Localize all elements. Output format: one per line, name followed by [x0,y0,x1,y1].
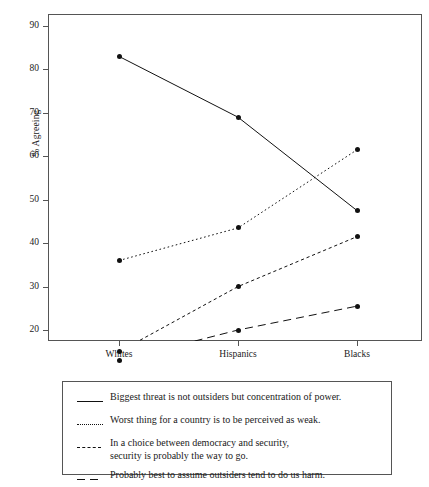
legend: Biggest threat is not outsiders but conc… [62,381,392,475]
y-tick-mark [43,69,48,70]
y-tick-label: 90 [30,19,40,32]
y-tick-40: 40 [0,243,48,244]
y-tick-label: 30 [30,280,40,293]
legend-item: In a choice between democracy and securi… [63,437,391,462]
y-tick-label: 20 [30,323,40,336]
legend-item: Probably best to assume outsiders tend t… [63,469,391,485]
legend-item: Biggest threat is not outsiders but conc… [63,391,391,407]
solid-line-swatch [77,395,103,407]
x-tick-label-blacks: Blacks [312,349,402,359]
y-tick-60: 60 [0,156,48,157]
y-tick-label: 70 [30,106,40,119]
y-tick-70: 70 [0,113,48,114]
fine-dashed-line-swatch [77,441,103,453]
x-tick-label-hispanics: Hispanics [193,349,283,359]
legend-item-label: Worst thing for a country is to be perce… [110,414,321,427]
y-tick-50: 50 [0,200,48,201]
y-tick-mark [43,200,48,201]
legend-item-label: Probably best to assume outsiders tend t… [110,469,325,482]
y-tick-label: 80 [30,62,40,75]
plot-area [48,14,422,341]
y-tick-label: 60 [30,149,40,162]
y-tick-mark [43,243,48,244]
y-tick-mark [43,330,48,331]
x-tick-mark-hispanics [238,341,239,346]
legend-item-label: Biggest threat is not outsiders but conc… [110,391,341,404]
y-tick-mark [43,156,48,157]
y-tick-80: 80 [0,69,48,70]
line-chart-figure: % Agreeing 2030405060708090 WhitesHispan… [0,0,429,487]
y-tick-30: 30 [0,287,48,288]
y-tick-mark [43,287,48,288]
y-tick-label: 50 [30,193,40,206]
x-tick-mark-blacks [357,341,358,346]
y-tick-90: 90 [0,26,48,27]
legend-item-label: In a choice between democracy and securi… [110,437,289,462]
y-tick-mark [43,113,48,114]
long-dashed-line-swatch [77,473,103,485]
y-tick-mark [43,26,48,27]
y-tick-label: 40 [30,236,40,249]
legend-item: Worst thing for a country is to be perce… [63,414,391,430]
x-tick-label-whites: Whites [74,349,164,359]
y-axis-title: % Agreeing [31,73,41,193]
x-tick-mark-whites [119,341,120,346]
y-tick-20: 20 [0,330,48,331]
dotted-line-swatch [77,418,103,430]
